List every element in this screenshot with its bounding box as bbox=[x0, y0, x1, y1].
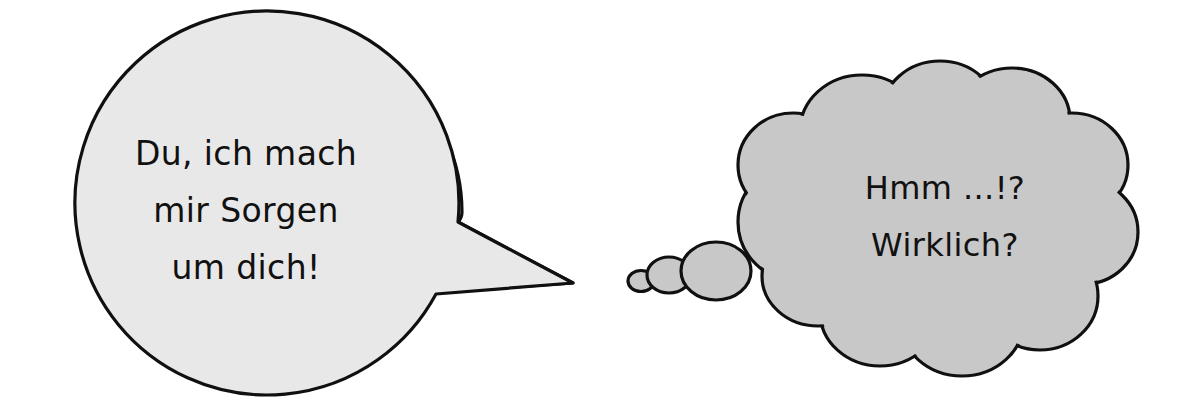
thought-line-2: Wirklich? bbox=[871, 226, 1019, 264]
thought-line-1: Hmm ...!? bbox=[865, 169, 1026, 207]
bubbles-illustration: Du, ich mach mir Sorgen um dich! bbox=[0, 0, 1198, 419]
speech-line-3: um dich! bbox=[171, 248, 320, 287]
thought-trail-puff-large bbox=[681, 242, 751, 300]
speech-line-1: Du, ich mach bbox=[135, 134, 357, 173]
speech-line-2: mir Sorgen bbox=[153, 191, 339, 230]
thought-bubble-group[interactable]: Hmm ...!? Wirklich? bbox=[628, 61, 1138, 376]
thought-cloud-body bbox=[738, 61, 1138, 376]
comic-bubbles-scene: Du, ich mach mir Sorgen um dich! bbox=[0, 0, 1198, 419]
speech-bubble-group[interactable]: Du, ich mach mir Sorgen um dich! bbox=[75, 11, 573, 395]
